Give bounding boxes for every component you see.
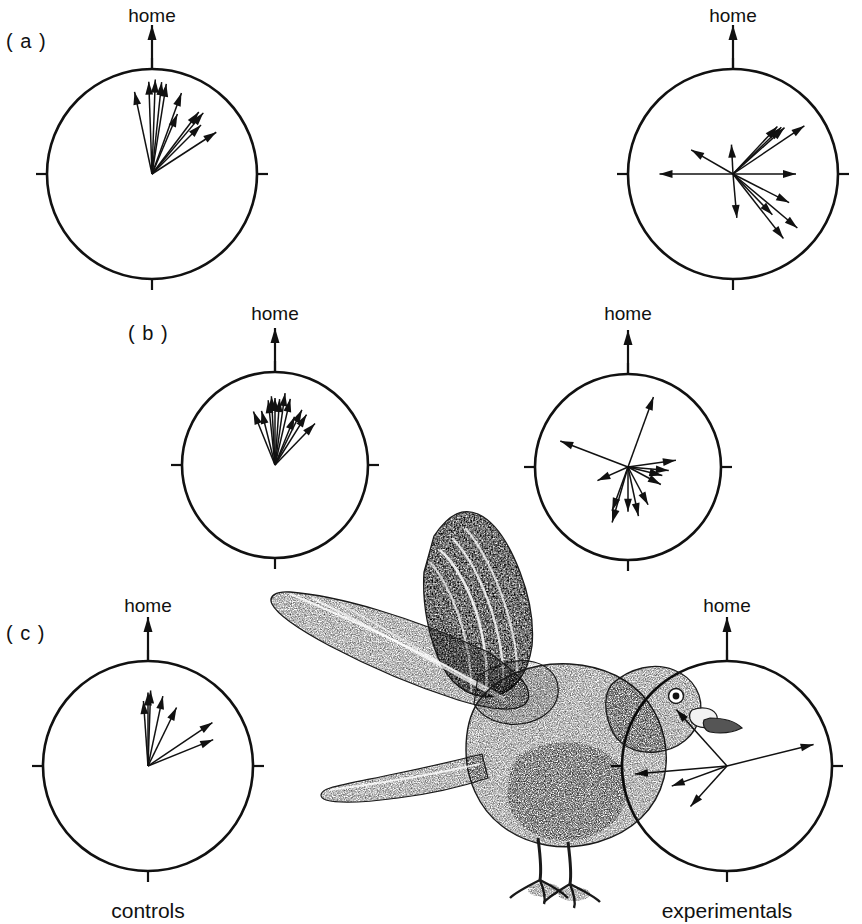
home-arrow-head-c-experimentals <box>723 617 732 632</box>
group-label-controls: controls <box>111 899 185 922</box>
home-label-a-controls: home <box>128 5 176 26</box>
home-arrow-head-b-controls <box>271 328 280 343</box>
orientation-circle-c-controls <box>32 617 264 882</box>
group-label-experimentals: experimentals <box>662 899 793 922</box>
orientation-circle-b-experimentals <box>524 330 732 571</box>
orientation-circle-a-experimentals <box>617 25 849 290</box>
orientation-circle-a-controls <box>36 25 268 290</box>
figure-canvas: ( a ) ( b ) ( c ) home home home home ho… <box>0 0 862 924</box>
home-label-a-experimentals: home <box>709 5 757 26</box>
home-arrow-head-b-experimentals <box>624 330 633 345</box>
panel-letter-b: ( b ) <box>128 322 169 344</box>
panel-letter-a: ( a ) <box>6 30 47 52</box>
orientation-circle-b-controls <box>171 328 379 569</box>
home-arrow-head-a-experimentals <box>729 25 738 40</box>
circular-diagram-group <box>32 25 849 882</box>
home-label-b-controls: home <box>251 303 299 324</box>
panel-letter-c: ( c ) <box>6 622 45 644</box>
home-arrow-head-a-controls <box>148 25 157 40</box>
home-arrow-head-c-controls <box>144 617 153 632</box>
orientation-figure: ( a ) ( b ) ( c ) home home home home ho… <box>0 0 862 924</box>
home-label-c-experimentals: home <box>703 595 751 616</box>
home-label-b-experimentals: home <box>604 303 652 324</box>
home-label-c-controls: home <box>124 595 172 616</box>
